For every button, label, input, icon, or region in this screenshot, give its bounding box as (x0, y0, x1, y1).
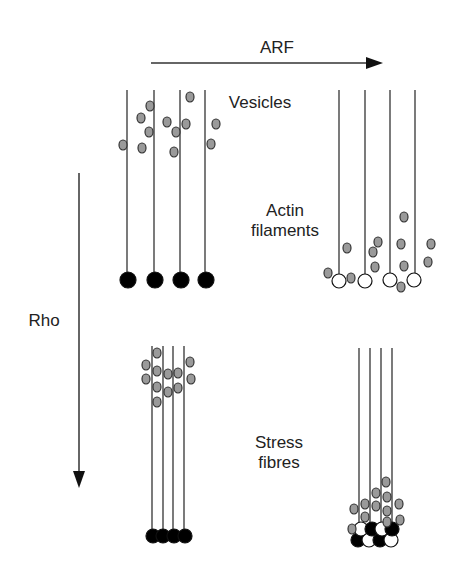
vesicle (174, 368, 182, 378)
vesicle (212, 119, 220, 129)
stress-fibres-label: Stress fibres (244, 433, 314, 473)
arrows-layer (73, 57, 383, 488)
vesicle (348, 524, 356, 534)
vesicle (427, 239, 435, 249)
vesicle (174, 383, 182, 393)
black-anchor-ball (173, 272, 189, 288)
panel-top-right (324, 90, 435, 292)
vesicle (347, 273, 355, 283)
vesicle (164, 369, 172, 379)
vesicle (343, 243, 351, 253)
diagram-canvas (0, 0, 460, 574)
panel-bottom-left (142, 346, 195, 543)
vesicle (400, 212, 408, 222)
vesicle (164, 387, 172, 397)
vesicle (383, 492, 391, 502)
vesicle (396, 515, 404, 525)
black-anchor-ball (198, 272, 214, 288)
vesicle (153, 366, 161, 376)
vesicle (186, 92, 194, 102)
vesicle (163, 117, 171, 127)
black-anchor-ball (120, 272, 136, 288)
white-anchor-ball (383, 273, 397, 287)
vesicle (350, 504, 358, 514)
white-anchor-ball (358, 274, 372, 288)
arf-label: ARF (250, 38, 304, 58)
vesicle (186, 357, 194, 367)
rho-label: Rho (24, 311, 64, 331)
actin-filaments-label: Actin filaments (246, 201, 324, 241)
panel-bottom-right (348, 348, 404, 547)
vesicle (153, 382, 161, 392)
arf-arrowhead-icon (366, 57, 383, 69)
white-anchor-ball (332, 274, 346, 288)
vesicle (383, 506, 391, 516)
stress-label-line2: fibres (244, 453, 314, 473)
vesicle (361, 512, 369, 522)
vesicle (400, 261, 408, 271)
vesicle (371, 262, 379, 272)
vesicles-label: Vesicles (218, 93, 302, 113)
vesicle (369, 247, 377, 257)
vesicle (153, 397, 161, 407)
actin-label-line2: filaments (246, 221, 324, 241)
vesicle (119, 140, 127, 150)
vesicle (138, 143, 146, 153)
vesicle (383, 517, 391, 527)
vesicle (324, 268, 332, 278)
actin-label-line1: Actin (246, 201, 324, 221)
white-anchor-ball (407, 273, 421, 287)
vesicle (170, 147, 178, 157)
vesicle (137, 113, 145, 123)
stress-label-line1: Stress (244, 433, 314, 453)
vesicle (372, 488, 380, 498)
vesicle (374, 237, 382, 247)
vesicle (207, 139, 215, 149)
black-anchor-ball (147, 272, 163, 288)
vesicle (361, 499, 369, 509)
vesicle (372, 501, 380, 511)
vesicle (397, 282, 405, 292)
vesicle (142, 360, 150, 370)
black-anchor-ball (178, 529, 192, 543)
diagram: ARF Rho Vesicles Actin filaments Stress … (0, 0, 460, 574)
vesicle (395, 499, 403, 509)
rho-arrowhead-icon (73, 471, 85, 488)
vesicle (146, 101, 154, 111)
panels-layer (119, 90, 435, 547)
vesicle (153, 348, 161, 358)
vesicle (182, 119, 190, 129)
vesicle (424, 257, 432, 267)
vesicle (187, 374, 195, 384)
vesicle (397, 239, 405, 249)
vesicle (145, 127, 153, 137)
panel-top-left (119, 90, 220, 288)
vesicle (172, 127, 180, 137)
vesicle (382, 477, 390, 487)
vesicle (142, 374, 150, 384)
